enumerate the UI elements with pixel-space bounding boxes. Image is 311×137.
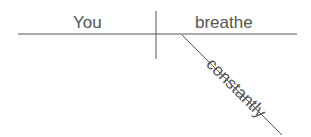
sentence-diagram: You breathe constantly bbox=[0, 0, 311, 137]
subject-word: You bbox=[73, 14, 102, 31]
diagram-lines bbox=[0, 0, 311, 137]
predicate-word: breathe bbox=[195, 14, 253, 31]
